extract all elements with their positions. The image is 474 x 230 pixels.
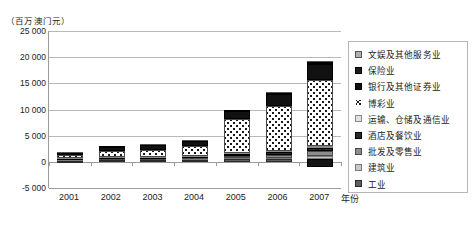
legend-swatch-icon — [355, 99, 362, 106]
bar-segment-gongye — [266, 159, 292, 162]
bar-segment-boca — [307, 80, 333, 146]
legend-item-boca[interactable]: 博彩业 — [355, 95, 462, 111]
bar-segment-gongye — [307, 159, 333, 168]
legend-item-baoxian[interactable]: 保险业 — [355, 62, 462, 78]
x-tick-2003: 2003 — [129, 192, 175, 202]
bar-segment-gongye — [224, 159, 250, 161]
legend-item-yinhang[interactable]: 银行及其他证券业 — [355, 78, 462, 94]
bar-segment-boca — [99, 151, 125, 158]
x-tick-2002: 2002 — [88, 192, 134, 202]
bar-segment-boca — [266, 106, 292, 151]
bar-2001[interactable] — [57, 152, 83, 162]
legend-item-jianzhu[interactable]: 建筑业 — [355, 159, 462, 175]
legend-item-pifa[interactable]: 批发及零售业 — [355, 143, 462, 159]
bar-2007[interactable] — [307, 61, 333, 167]
bar-2003[interactable] — [140, 144, 166, 162]
legend-swatch-icon — [355, 164, 362, 171]
y-tick-20000: 20 000 — [2, 52, 46, 62]
legend-item-yunshu[interactable]: 运输、仓储及通信业 — [355, 111, 462, 127]
x-axis-tick-labels: 2001 2002 2003 2004 2005 2006 2007 — [48, 192, 340, 206]
legend-swatch-icon — [355, 67, 362, 74]
x-axis-title: 年份 — [341, 192, 359, 205]
legend-label: 文娱及其他服务业 — [368, 48, 441, 60]
y-tick-minus5000: -5 000 — [2, 183, 46, 193]
x-tick-2006: 2006 — [255, 192, 301, 202]
legend-label: 建筑业 — [368, 161, 395, 173]
bar-series-group — [49, 31, 341, 188]
y-tick-5000: 5 000 — [2, 131, 46, 141]
x-tickmark — [341, 162, 342, 166]
legend-label: 批发及零售业 — [368, 145, 423, 157]
legend-swatch-icon — [355, 115, 362, 122]
bar-2004[interactable] — [182, 140, 208, 161]
legend-swatch-icon — [355, 180, 362, 187]
bar-segment-gongye — [182, 160, 208, 162]
bar-segment-gongye — [57, 161, 83, 163]
bar-2005[interactable] — [224, 110, 250, 162]
legend-label: 博彩业 — [368, 97, 395, 109]
plot-area — [48, 31, 341, 188]
bar-segment-yinhang — [266, 94, 292, 107]
bar-2002[interactable] — [99, 146, 125, 162]
bar-2006[interactable] — [266, 92, 292, 162]
bar-segment-yinhang — [224, 111, 250, 119]
bar-segment-gongye — [140, 160, 166, 162]
legend-label: 工业 — [368, 178, 386, 190]
legend-label: 酒店及餐饮业 — [368, 129, 423, 141]
x-tick-2004: 2004 — [171, 192, 217, 202]
legend-swatch-icon — [355, 132, 362, 139]
y-axis-tick-labels: 25 000 20 000 15 000 10 000 5 000 0 -5 0… — [0, 31, 46, 188]
chart-root: （百万澳门元） 25 000 20 000 15 000 10 000 5 00… — [0, 0, 474, 230]
bar-segment-yinhang — [307, 64, 333, 80]
bar-segment-gongye — [99, 160, 125, 162]
bar-segment-boca — [224, 119, 250, 153]
x-tick-2001: 2001 — [46, 192, 92, 202]
y-tick-15000: 15 000 — [2, 78, 46, 88]
y-tick-0: 0 — [2, 157, 46, 167]
x-tick-2007: 2007 — [296, 192, 342, 202]
legend-swatch-icon — [355, 148, 362, 155]
chart-legend: 文娱及其他服务业 保险业 银行及其他证券业 博彩业 运输、仓储及通信业 酒店及餐… — [348, 41, 468, 193]
y-tick-25000: 25 000 — [2, 26, 46, 36]
legend-swatch-icon — [355, 51, 362, 58]
legend-swatch-icon — [355, 83, 362, 90]
y-tick-10000: 10 000 — [2, 105, 46, 115]
legend-item-gongye[interactable]: 工业 — [355, 176, 462, 192]
y-axis-unit-caption: （百万澳门元） — [6, 14, 70, 26]
legend-label: 保险业 — [368, 64, 395, 76]
legend-item-wenyu[interactable]: 文娱及其他服务业 — [355, 46, 462, 62]
axis-bottom-line — [49, 188, 341, 189]
legend-item-jiudian[interactable]: 酒店及餐饮业 — [355, 127, 462, 143]
bar-segment-boca — [140, 150, 166, 157]
x-tick-2005: 2005 — [213, 192, 259, 202]
bar-segment-boca — [182, 146, 208, 156]
legend-label: 银行及其他证券业 — [368, 80, 441, 92]
legend-label: 运输、仓储及通信业 — [368, 113, 450, 125]
